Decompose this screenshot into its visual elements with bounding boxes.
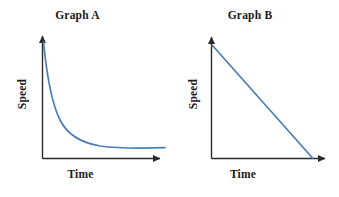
physics-graphs-figure: Graph A Speed Time Graph B Time Speed <box>0 0 339 197</box>
plot-canvas <box>0 0 339 197</box>
graph-a-speed-curve <box>44 42 166 148</box>
graph-b-speed-line <box>213 46 313 159</box>
